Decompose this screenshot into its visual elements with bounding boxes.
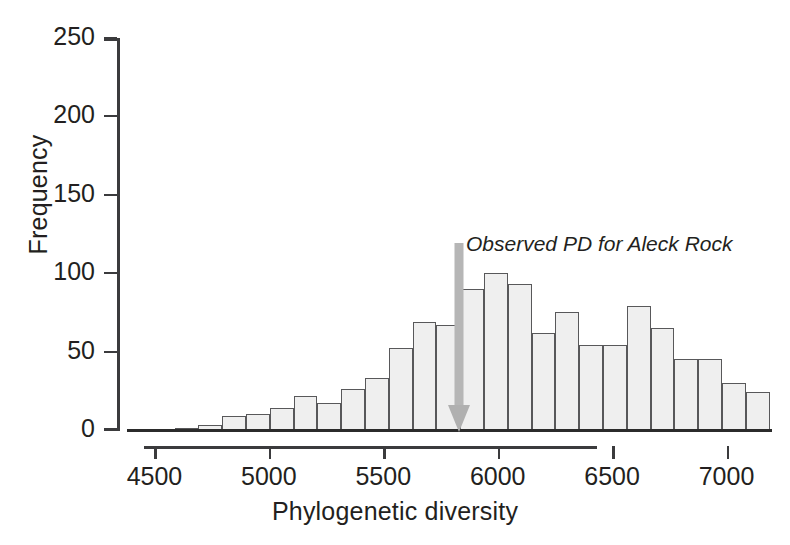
y-axis-tick-mark bbox=[104, 194, 117, 196]
y-axis-tick-label: 200 bbox=[0, 100, 95, 129]
x-axis-tick-mark bbox=[383, 446, 386, 459]
y-axis-tick-mark bbox=[104, 351, 117, 353]
y-axis-line bbox=[117, 38, 120, 431]
x-axis-tick-label: 6000 bbox=[438, 462, 558, 491]
histogram-bar bbox=[651, 328, 675, 430]
y-axis-tick-mark bbox=[104, 429, 117, 431]
histogram-bar bbox=[532, 333, 556, 430]
x-axis-tick-mark bbox=[498, 446, 501, 459]
histogram-bar bbox=[270, 408, 294, 430]
histogram-bar bbox=[603, 345, 627, 430]
x-axis-tick-label: 5000 bbox=[209, 462, 329, 491]
y-axis-tick-label: 0 bbox=[0, 414, 95, 443]
x-baseline bbox=[127, 429, 772, 432]
histogram-bar bbox=[341, 389, 365, 430]
histogram-bar bbox=[674, 359, 698, 430]
histogram-bar bbox=[627, 306, 651, 430]
x-axis-tick-mark bbox=[269, 446, 272, 459]
y-axis-tick-label: 150 bbox=[0, 179, 95, 208]
histogram-bar bbox=[746, 392, 770, 430]
x-axis: 450050005500600065007000 bbox=[0, 0, 790, 60]
histogram-bar bbox=[436, 325, 460, 430]
histogram-bar bbox=[484, 273, 508, 430]
y-axis-tick-label: 50 bbox=[0, 336, 95, 365]
histogram-bar bbox=[460, 289, 484, 430]
y-axis-tick-label: 100 bbox=[0, 257, 95, 286]
histogram-bar bbox=[555, 312, 579, 430]
x-axis-tick-mark bbox=[154, 446, 157, 459]
x-axis-label: Phylogenetic diversity bbox=[0, 497, 790, 526]
histogram-figure: Frequency 250200150100500 Observed PD fo… bbox=[0, 0, 790, 545]
histogram-bar bbox=[246, 414, 270, 430]
x-axis-tick-label: 4500 bbox=[94, 462, 214, 491]
x-axis-tick-label: 7000 bbox=[667, 462, 787, 491]
x-axis-tick-mark bbox=[612, 446, 615, 459]
y-axis-tick-mark bbox=[104, 272, 117, 274]
histogram-bar bbox=[365, 378, 389, 430]
histogram-bar bbox=[698, 359, 722, 430]
observed-pd-label: Observed PD for Aleck Rock bbox=[466, 232, 732, 256]
histogram-bar bbox=[222, 416, 246, 430]
histogram-bar bbox=[413, 322, 437, 430]
histogram-bar bbox=[294, 396, 318, 430]
histogram-bar bbox=[579, 345, 603, 430]
histogram-bar bbox=[508, 284, 532, 430]
histogram-bar bbox=[389, 348, 413, 430]
x-axis-line bbox=[144, 446, 597, 449]
histogram-bar bbox=[317, 403, 341, 430]
histogram-bar bbox=[722, 383, 746, 430]
y-axis-tick-mark bbox=[104, 115, 117, 117]
x-axis-tick-label: 6500 bbox=[552, 462, 672, 491]
x-axis-tick-mark bbox=[727, 446, 730, 459]
x-axis-tick-label: 5500 bbox=[323, 462, 443, 491]
